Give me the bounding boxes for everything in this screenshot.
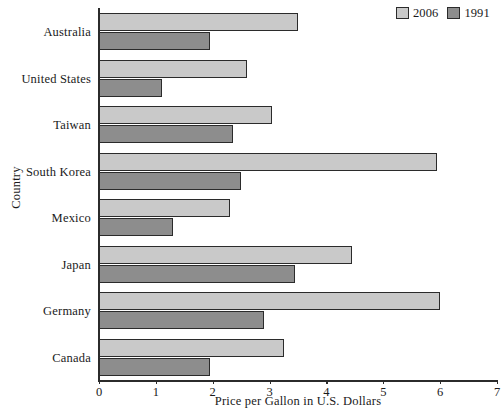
bar-group: Mexico — [99, 199, 497, 237]
y-axis-tick-label: Germany — [43, 304, 91, 319]
bar-2006 — [99, 60, 247, 78]
plot-area: AustraliaUnited StatesTaiwanSouth KoreaM… — [99, 8, 497, 380]
x-axis-tick — [213, 380, 214, 384]
x-axis-tick-label: 1 — [144, 385, 168, 400]
y-axis-tick-label: Canada — [52, 350, 91, 365]
x-axis-line — [98, 380, 497, 382]
bar-1991 — [99, 218, 173, 236]
bar-1991 — [99, 172, 241, 190]
y-axis-tick-label: Australia — [43, 25, 91, 40]
bar-group: Australia — [99, 13, 497, 51]
x-axis-tick-label: 0 — [87, 385, 111, 400]
y-axis-tick-label: United States — [21, 71, 91, 86]
bar-1991 — [99, 358, 210, 376]
y-axis-tick-label: Taiwan — [53, 118, 91, 133]
bar-2006 — [99, 13, 298, 31]
y-axis-tick-label: Japan — [62, 257, 91, 272]
bar-1991 — [99, 265, 295, 283]
bar-2006 — [99, 246, 352, 264]
x-axis-tick-label: 7 — [485, 385, 503, 400]
bar-2006 — [99, 292, 440, 310]
y-axis-tick-label: South Korea — [26, 164, 91, 179]
x-axis-tick — [270, 380, 271, 384]
bar-group: Germany — [99, 292, 497, 330]
bar-group: Japan — [99, 246, 497, 284]
bar-2006 — [99, 339, 284, 357]
x-axis-tick-label: 3 — [258, 385, 282, 400]
x-axis-tick-label: 2 — [201, 385, 225, 400]
x-axis-tick — [383, 380, 384, 384]
x-axis-tick — [497, 380, 498, 384]
bar-1991 — [99, 311, 264, 329]
y-axis-tick-label: Mexico — [52, 211, 91, 226]
x-axis-tick — [156, 380, 157, 384]
bar-group: Taiwan — [99, 106, 497, 144]
x-axis-tick-label: 5 — [371, 385, 395, 400]
bar-chart: 2006 1991 Country Price per Gallon in U.… — [0, 0, 503, 412]
x-axis-tick-label: 4 — [314, 385, 338, 400]
x-axis-tick — [440, 380, 441, 384]
x-axis-tick-label: 6 — [428, 385, 452, 400]
bar-group: South Korea — [99, 153, 497, 191]
bar-2006 — [99, 153, 437, 171]
x-axis-tick — [99, 380, 100, 384]
bar-1991 — [99, 79, 162, 97]
bar-1991 — [99, 125, 233, 143]
x-axis-tick — [326, 380, 327, 384]
bar-1991 — [99, 32, 210, 50]
bar-group: United States — [99, 60, 497, 98]
bar-2006 — [99, 106, 272, 124]
y-axis-title: Country — [9, 148, 24, 228]
bar-group: Canada — [99, 339, 497, 377]
bar-2006 — [99, 199, 230, 217]
